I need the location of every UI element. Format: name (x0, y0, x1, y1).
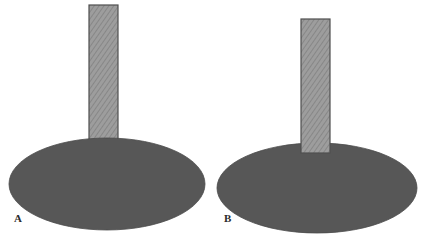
panel-b-hatched-bar (301, 19, 330, 153)
panel-a-hatched-bar (89, 5, 118, 145)
figure-illustration (0, 0, 425, 238)
panel-a-bar-shape (89, 5, 118, 145)
panel-label-a: A (14, 213, 22, 224)
panel-b-gray-ellipse (217, 143, 417, 233)
panel-label-b: B (224, 213, 231, 224)
panel-b-bar-shape (301, 19, 330, 153)
panel-a-gray-ellipse (9, 138, 205, 230)
figure-container: A B (0, 0, 425, 238)
